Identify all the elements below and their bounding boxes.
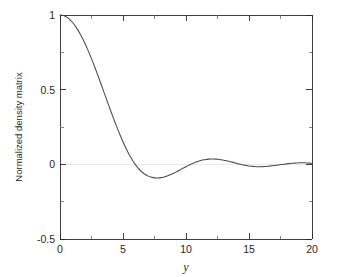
y-axis-tick-labels: 1 0.5 0 -0.5	[37, 9, 55, 245]
y-tick-label: -0.5	[37, 233, 55, 245]
y-tick-label: 0	[49, 158, 55, 170]
x-axis-tick-labels: 0 5 10 15 20	[57, 243, 318, 255]
y-tick-label: 0.5	[40, 84, 55, 96]
figure-page: 0 5 10 15 20 1 0.5 0 -0.5 y Normalized d…	[0, 0, 343, 277]
x-tick-label: 0	[57, 243, 63, 255]
plot-background	[60, 15, 312, 239]
x-tick-label: 10	[180, 243, 192, 255]
x-tick-label: 5	[120, 243, 126, 255]
x-tick-label: 15	[243, 243, 255, 255]
x-tick-label: 20	[306, 243, 318, 255]
density-matrix-chart: 0 5 10 15 20 1 0.5 0 -0.5 y Normalized d…	[0, 0, 343, 277]
y-tick-label: 1	[49, 9, 55, 21]
x-axis-title: y	[182, 260, 189, 274]
y-axis-title: Normalized density matrix	[13, 72, 24, 182]
